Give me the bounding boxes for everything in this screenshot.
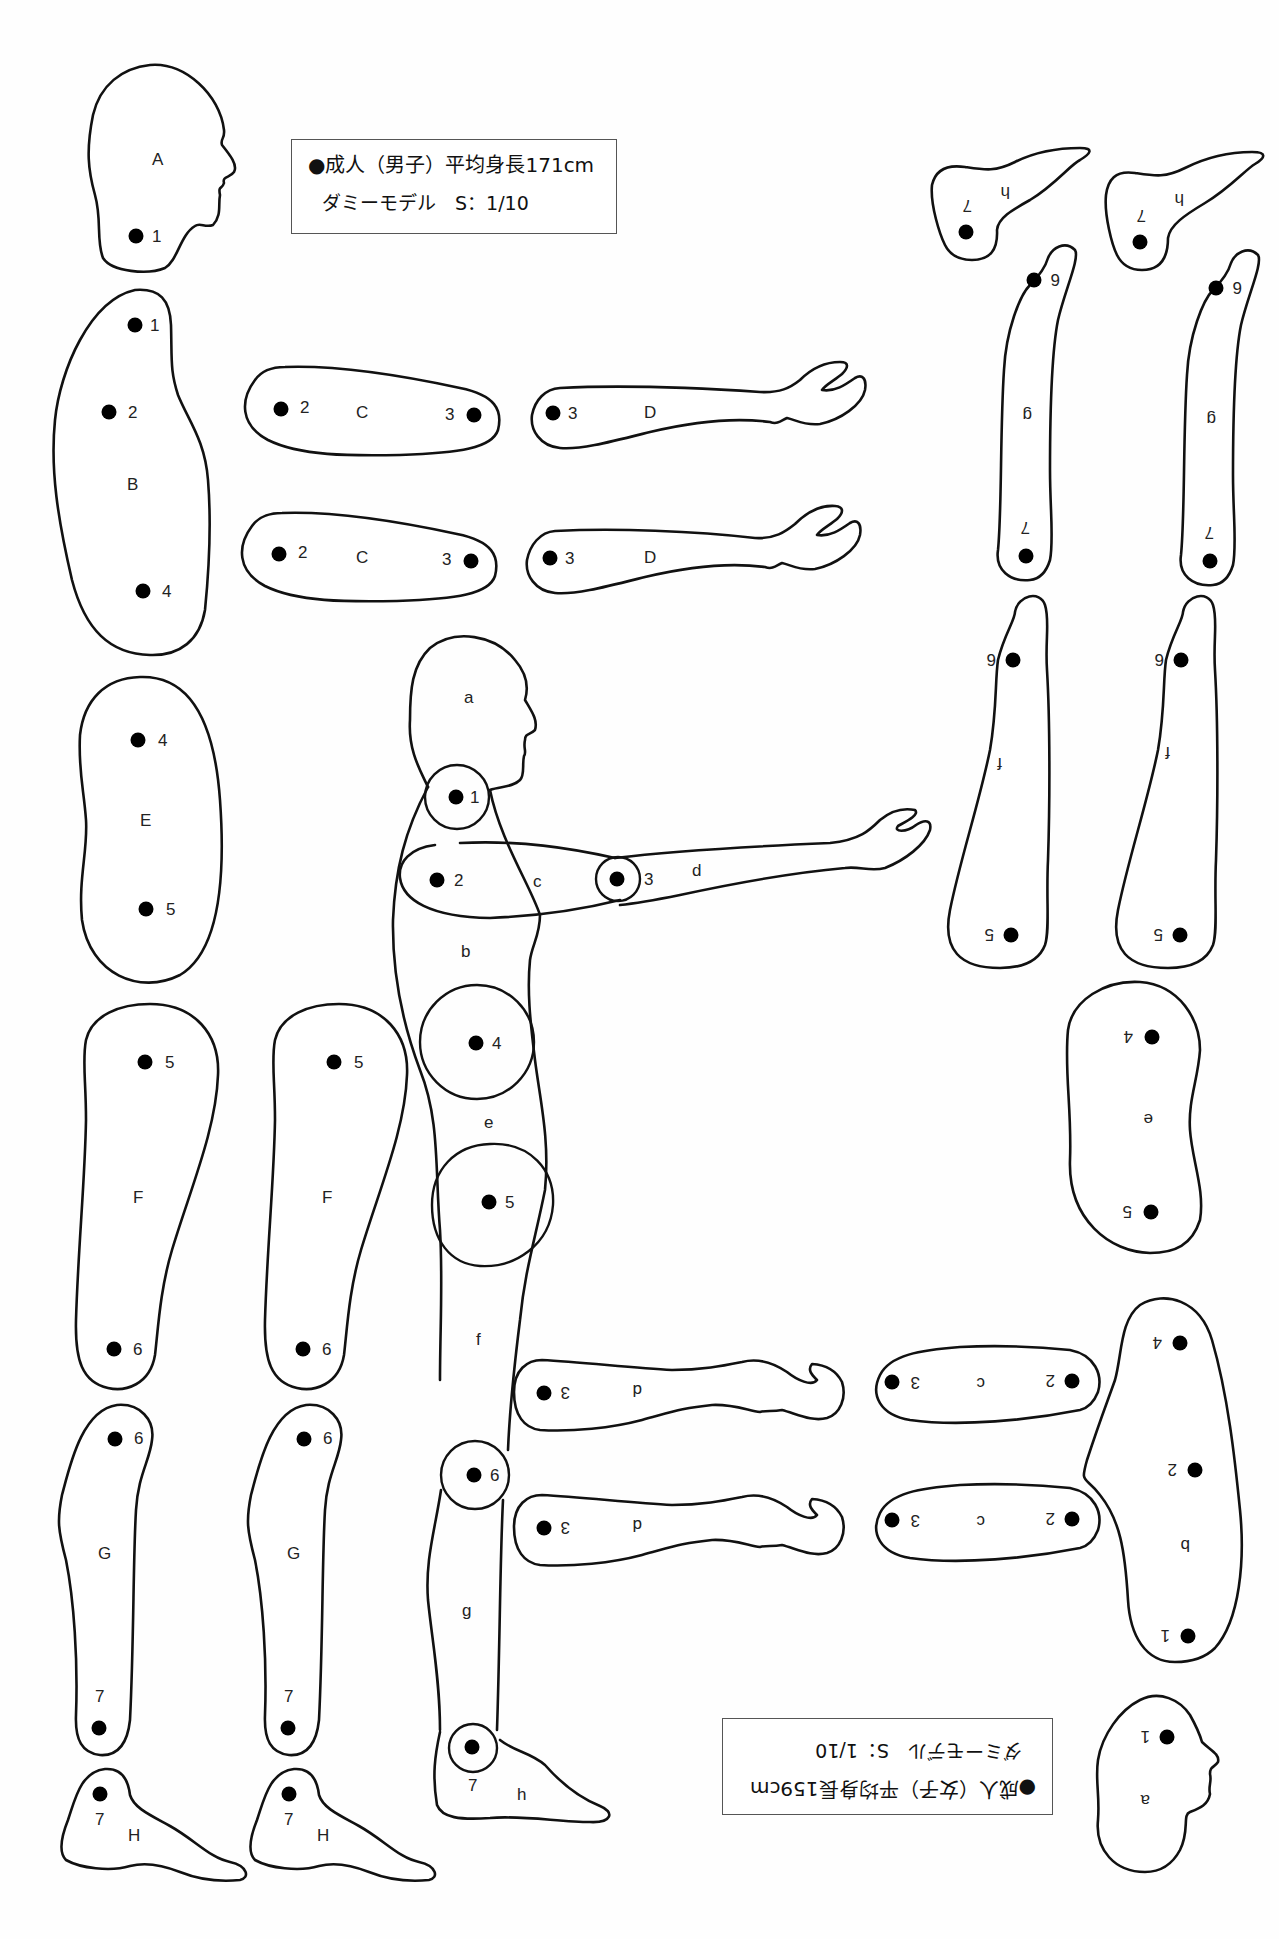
svg-text:7: 7	[284, 1810, 293, 1829]
svg-text:6: 6	[322, 1340, 331, 1359]
joint-2-label: 2	[454, 871, 463, 890]
assembled-label-c: c	[533, 872, 542, 891]
part-c-label: c	[976, 1512, 985, 1531]
part-H-foot-2: 7 H	[251, 1769, 435, 1881]
svg-text:5: 5	[985, 925, 994, 944]
parts-drawing: A 1 1 2 B 4 2 C 3 2 C	[0, 0, 1279, 1939]
svg-text:3: 3	[565, 549, 574, 568]
part-c-upper-arm-1: 2 c 3	[876, 1346, 1099, 1423]
svg-text:6: 6	[323, 1429, 332, 1448]
svg-text:4: 4	[1153, 1333, 1162, 1352]
crosshair-icon	[606, 868, 628, 890]
part-h-label: h	[1001, 183, 1010, 202]
joint-4-label: 4	[492, 1034, 501, 1053]
part-B-torso: 1 2 B 4	[54, 290, 210, 655]
assembled-label-g: g	[462, 1601, 471, 1620]
crosshair-icon	[461, 1736, 483, 1758]
part-b-label: b	[1181, 1536, 1190, 1555]
joint-1-label: 1	[470, 788, 479, 807]
svg-text:3: 3	[911, 1511, 920, 1530]
part-A-label: A	[152, 150, 164, 169]
part-g-label: g	[1207, 410, 1216, 429]
svg-text:1: 1	[1161, 1626, 1170, 1645]
crosshair-icon	[465, 1032, 487, 1054]
part-C-label: C	[356, 548, 368, 567]
part-H-label: H	[128, 1826, 140, 1845]
part-F-thigh-1: 5 F 6	[76, 1004, 218, 1389]
part-d-forearm-1: 3 d	[514, 1360, 844, 1431]
svg-text:2: 2	[298, 543, 307, 562]
part-H-label: H	[317, 1826, 329, 1845]
part-c-label: c	[976, 1374, 985, 1393]
svg-text:4: 4	[1124, 1027, 1133, 1046]
joint-7-label: 7	[468, 1776, 477, 1795]
svg-text:6: 6	[1051, 270, 1060, 289]
svg-text:1: 1	[1141, 1727, 1150, 1746]
svg-text:7: 7	[95, 1687, 104, 1706]
svg-text:5: 5	[166, 900, 175, 919]
assembled-label-b: b	[461, 942, 470, 961]
assembled-figure: a 1 3 2 c d b 4 e	[393, 636, 930, 1822]
svg-text:2: 2	[1046, 1371, 1055, 1390]
part-B-label: B	[127, 475, 138, 494]
part-d-forearm-2: 3 d	[514, 1495, 844, 1566]
part-G-label: G	[287, 1544, 300, 1563]
assembled-label-f: f	[476, 1330, 481, 1349]
joint-5-label: 5	[505, 1193, 514, 1212]
part-F-thigh-2: 5 F 6	[265, 1004, 407, 1389]
svg-text:2: 2	[1046, 1509, 1055, 1528]
part-G-label: G	[98, 1544, 111, 1563]
part-G-shin-1: 6 G 7	[59, 1405, 152, 1755]
part-D-label: D	[644, 548, 656, 567]
part-F-label: F	[322, 1188, 332, 1207]
assembled-label-e: e	[484, 1113, 493, 1132]
part-f-thigh-1: 5 f 6	[948, 596, 1049, 968]
assembled-label-d: d	[692, 861, 701, 880]
part-g-shin-2: 7 g 6	[1181, 250, 1259, 585]
part-E-label: E	[140, 811, 151, 830]
svg-text:7: 7	[1205, 523, 1214, 542]
part-h-foot-1: 7 h	[932, 148, 1090, 260]
pivot-1-label: 1	[152, 227, 161, 246]
part-C-upper-arm-2: 2 C 3	[242, 513, 496, 602]
part-c-upper-arm-2: 2 c 3	[876, 1484, 1099, 1561]
svg-text:7: 7	[1021, 518, 1030, 537]
part-b-torso: 1 2 b 4	[1084, 1298, 1242, 1662]
svg-text:3: 3	[561, 1518, 570, 1537]
crosshair-icon	[463, 1464, 485, 1486]
part-f-label: f	[997, 754, 1002, 773]
part-f-thigh-2: 5 f 6	[1116, 596, 1217, 968]
svg-text:7: 7	[963, 196, 972, 215]
assembled-label-a: a	[464, 688, 474, 707]
svg-text:6: 6	[1233, 278, 1242, 297]
crosshair-icon	[478, 1191, 500, 1213]
part-a-label: a	[1140, 1791, 1150, 1810]
part-D-label: D	[644, 403, 656, 422]
svg-text:7: 7	[284, 1687, 293, 1706]
svg-text:5: 5	[1123, 1202, 1132, 1221]
svg-text:6: 6	[1155, 650, 1164, 669]
part-C-label: C	[356, 403, 368, 422]
part-A-head: A 1	[89, 65, 235, 272]
svg-text:3: 3	[561, 1383, 570, 1402]
svg-text:5: 5	[165, 1053, 174, 1072]
part-d-label: d	[633, 1516, 642, 1535]
svg-text:5: 5	[354, 1053, 363, 1072]
joint-3-label: 3	[644, 870, 653, 889]
svg-text:4: 4	[162, 582, 171, 601]
part-f-label: f	[1165, 743, 1170, 762]
crosshair-icon	[445, 786, 467, 808]
part-G-shin-2: 6 G 7	[248, 1405, 341, 1755]
part-H-foot-1: 7 H	[62, 1769, 246, 1881]
svg-text:3: 3	[911, 1373, 920, 1392]
svg-text:7: 7	[95, 1810, 104, 1829]
svg-text:2: 2	[300, 398, 309, 417]
part-F-label: F	[133, 1188, 143, 1207]
part-g-label: g	[1023, 406, 1032, 425]
part-e-hip: 5 e 4	[1067, 982, 1201, 1253]
part-D-forearm-1: 3 D	[532, 362, 866, 448]
part-E-hip: 4 E 5	[80, 677, 222, 983]
part-h-label: h	[1175, 190, 1184, 209]
svg-text:5: 5	[1154, 925, 1163, 944]
crosshair-icon	[426, 869, 448, 891]
